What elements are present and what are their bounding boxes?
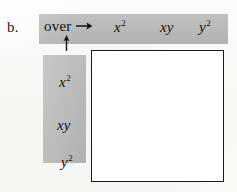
- over-label: over: [44, 18, 71, 35]
- header-row-term-1-base: xy: [160, 19, 173, 35]
- header-row-term-2-base: y: [199, 19, 206, 35]
- header-column-shading: [43, 55, 86, 163]
- header-row-term-0-base: x: [114, 19, 121, 35]
- product-grid[interactable]: [91, 50, 224, 182]
- header-column-term-0: x2: [59, 73, 71, 91]
- up-arrow-icon: [61, 35, 72, 51]
- header-column-texture: [43, 55, 86, 163]
- header-row-term-1: xy: [160, 18, 174, 36]
- header-column-term-2-base: y: [61, 154, 68, 170]
- header-row-term-2-exponent: 2: [206, 18, 211, 28]
- multiplication-grid-figure: b. over x2 xy y2 x2 xy y2: [0, 0, 237, 192]
- header-column-term-1-base: xy: [57, 117, 70, 133]
- header-column-term-2-exponent: 2: [68, 153, 73, 163]
- item-letter-label: b.: [7, 19, 19, 35]
- right-arrow-icon: [76, 20, 93, 32]
- header-row-term-2: y2: [199, 18, 211, 36]
- header-row-term-0-exponent: 2: [121, 18, 126, 28]
- header-column-term-0-exponent: 2: [66, 73, 71, 83]
- header-column-term-2: y2: [61, 153, 73, 171]
- header-column-term-1: xy: [57, 116, 71, 134]
- header-row-term-0: x2: [114, 18, 126, 36]
- header-column-term-0-base: x: [59, 74, 66, 90]
